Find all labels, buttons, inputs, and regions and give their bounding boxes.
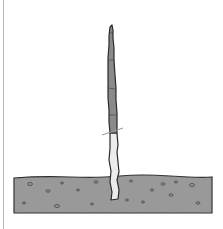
whip-illustration — [0, 0, 223, 229]
stem-upper — [108, 25, 117, 133]
